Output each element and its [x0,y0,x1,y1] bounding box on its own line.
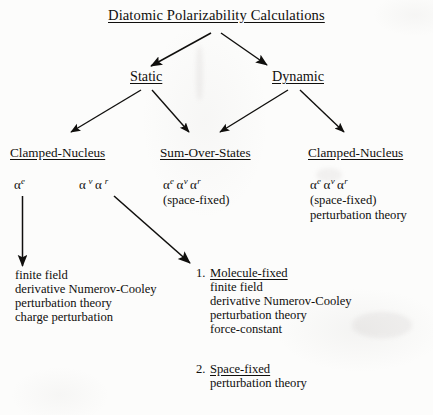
arrow-dynamic-to-clamped-right [300,90,344,132]
formula-right-alphas: αeαvαr [310,177,350,191]
alpha-superscript-e: e [21,176,25,186]
leaf-space-fixed-body: Space-fixed perturbation theory [210,362,307,390]
list-number: 1. [196,266,205,280]
node-clamped-nucleus-left: Clamped-Nucleus [10,146,105,159]
leaf-molecule-fixed-heading: Molecule-fixed [210,266,352,280]
alpha-superscript-e: e [317,176,321,186]
node-dynamic: Dynamic [272,69,324,83]
alpha-superscript-v: v [184,176,188,186]
list-number: 2. [196,362,205,376]
arrow-static-to-sum-over-states [152,90,189,132]
alpha-superscript-e: e [170,176,174,186]
leaf-space-fixed: 2. Space-fixed perturbation theory [196,362,307,390]
alpha-superscript-r: r [197,176,200,186]
arrow-dynamic-to-sum-over-states [220,90,288,132]
diagram-title: Diatomic Polarizability Calculations [108,8,325,23]
list-item: finite field [210,280,352,294]
alpha-superscript-r: r [344,176,347,186]
node-clamped-nucleus-right: Clamped-Nucleus [308,146,403,159]
alpha-superscript-r: r [105,176,108,186]
list-item: force-constant [210,322,352,336]
leaf-molecule-fixed: 1. Molecule-fixed finite field derivativ… [196,266,352,336]
list-item: finite field [15,268,157,282]
alpha-e-term: αe [310,177,321,192]
alpha-r-term: αr [95,177,108,192]
alpha-symbol: α [14,177,21,192]
alpha-v-term: αv [324,177,335,192]
leaf-molecule-fixed-body: Molecule-fixed finite field derivative N… [210,266,352,336]
alpha-v-term: αv [177,177,188,192]
formula-alpha-e: αe [14,177,25,191]
alpha-symbol: α [79,177,86,192]
alpha-r-term: αr [190,177,201,192]
diagram-canvas: Diatomic Polarizability Calculations Sta… [0,0,433,415]
alpha-v-term: αv [79,177,93,192]
alpha-symbol: α [95,177,102,192]
list-item: perturbation theory [210,308,352,322]
formula-sum-over-states-alphas: αeαvαr [163,177,203,191]
scan-artifact [196,46,203,100]
list-item: derivative Numerov-Cooley [210,294,352,308]
alpha-e-term: αe [163,177,174,192]
sum-over-states-note: (space-fixed) [163,194,229,207]
leaf-space-fixed-heading: Space-fixed [210,362,307,376]
list-item: perturbation theory [15,296,157,310]
node-sum-over-states: Sum-Over-States [160,146,251,159]
list-item: charge perturbation [15,310,157,324]
arrow-title-to-dynamic [221,33,267,65]
node-static: Static [130,69,162,83]
list-item: perturbation theory [210,376,307,390]
alpha-superscript-v: v [89,176,93,186]
right-method-perturbation-theory: perturbation theory [310,209,407,222]
leaf-left-method-list: finite field derivative Numerov-Cooley p… [15,268,157,324]
list-item: derivative Numerov-Cooley [15,282,157,296]
alpha-r-term: αr [337,177,348,192]
formula-alpha-v-r: αvαr [79,177,111,191]
right-note-space-fixed: (space-fixed) [310,194,376,207]
scan-artifact [352,312,412,338]
alpha-superscript-v: v [331,176,335,186]
arrow-static-to-clamped-left [71,90,141,132]
